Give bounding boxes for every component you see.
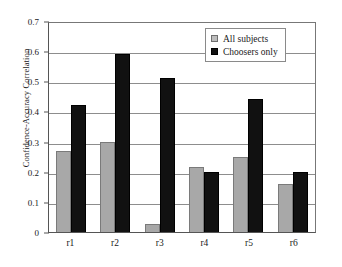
- bar: [233, 157, 248, 232]
- black-square-swatch: [211, 48, 218, 55]
- legend-item: All subjects: [211, 32, 278, 45]
- bar: [189, 167, 204, 232]
- legend-item-label: Choosers only: [223, 47, 278, 57]
- bar: [204, 172, 219, 232]
- y-axis-tick-label: 0.2: [28, 168, 39, 177]
- legend-item-label: All subjects: [223, 34, 268, 44]
- gray-square-swatch: [211, 35, 218, 42]
- bar: [115, 54, 130, 232]
- bar-group: [138, 23, 182, 232]
- bar: [71, 105, 86, 232]
- y-axis-tick-label: 0: [35, 229, 40, 238]
- y-axis-tick-labels: 00.10.20.30.40.50.60.7: [0, 22, 44, 233]
- y-axis-tick-label: 0.7: [28, 18, 39, 27]
- y-axis-tick-label: 0.1: [28, 198, 39, 207]
- legend-item: Choosers only: [211, 45, 278, 58]
- x-axis-tick-labels: r1r2r3r4r5r6: [48, 238, 316, 248]
- bar: [56, 151, 71, 232]
- y-axis-tick-label: 0.6: [28, 48, 39, 57]
- y-axis-tick-label: 0.3: [28, 138, 39, 147]
- chart-legend: All subjectsChoosers only: [205, 28, 286, 62]
- x-axis-tick-label: r6: [271, 238, 316, 248]
- bar: [145, 224, 160, 232]
- bar-group: [93, 23, 137, 232]
- y-axis-tick-label: 0.5: [28, 78, 39, 87]
- x-axis-tick-label: r3: [137, 238, 182, 248]
- bar: [293, 172, 308, 232]
- x-axis-tick-label: r2: [93, 238, 138, 248]
- bar: [278, 184, 293, 232]
- bar-chart: Confidence-Accuracy Correlation 00.10.20…: [0, 0, 342, 267]
- bar: [248, 99, 263, 232]
- bar: [100, 142, 115, 232]
- bar-group: [49, 23, 93, 232]
- y-axis-tick-label: 0.4: [28, 108, 39, 117]
- bar: [160, 78, 175, 232]
- x-axis-tick-label: r1: [48, 238, 93, 248]
- x-axis-tick-label: r4: [182, 238, 227, 248]
- x-axis-tick-label: r5: [227, 238, 272, 248]
